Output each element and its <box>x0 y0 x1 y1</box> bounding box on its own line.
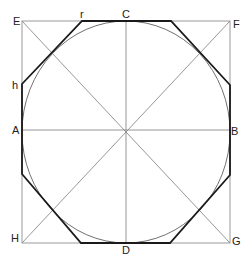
label-g: G <box>232 235 241 247</box>
label-f: F <box>233 18 240 30</box>
label-a: A <box>12 124 20 136</box>
octagon-construction-diagram: E F G H A B C D h r <box>0 0 249 260</box>
label-r-vertex: r <box>80 8 84 20</box>
label-h-vertex: h <box>12 79 18 91</box>
label-b: B <box>231 125 238 137</box>
label-c: C <box>122 8 130 20</box>
label-h-corner: H <box>11 232 19 244</box>
label-d: D <box>122 244 130 256</box>
label-e: E <box>13 15 20 27</box>
